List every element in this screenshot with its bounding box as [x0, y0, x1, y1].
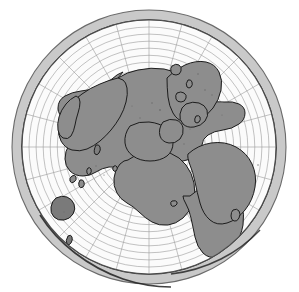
map-figure: Azimuthal Equidistant World Map Azimutha…	[0, 0, 299, 292]
land-novaya-zemlya	[186, 80, 192, 88]
land-cuba	[171, 201, 178, 207]
world-map-svg	[0, 0, 299, 292]
land-baffin-island	[159, 119, 183, 143]
land-svalbard	[171, 64, 182, 75]
land-australia	[51, 196, 75, 220]
land-iceland	[176, 92, 187, 102]
land-sri-lanka	[113, 166, 118, 172]
land-british-isles	[195, 116, 201, 123]
land-philippines	[87, 168, 92, 175]
land-madagascar	[231, 209, 240, 221]
land-borneo	[79, 180, 85, 188]
